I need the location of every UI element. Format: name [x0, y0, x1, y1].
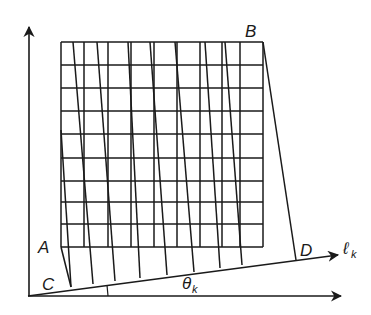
slanted-line — [97, 42, 115, 281]
label-l: ℓ — [342, 239, 349, 258]
label-theta: θ — [182, 274, 192, 293]
slanted-line — [128, 42, 140, 278]
label-theta-k: θ k — [182, 274, 198, 295]
slanted-line — [205, 42, 220, 268]
angle-arc-tick — [107, 285, 108, 296]
slanted-mesh-lines — [61, 42, 296, 287]
label-theta-subscript: k — [192, 283, 198, 295]
label-lk: ℓ k — [342, 239, 357, 260]
label-C: C — [42, 275, 55, 294]
slanted-line — [175, 42, 194, 272]
slanted-line — [61, 130, 71, 287]
label-l-subscript: k — [351, 248, 357, 260]
label-D: D — [300, 241, 312, 260]
slanted-line — [263, 42, 296, 260]
label-A: A — [37, 238, 49, 257]
label-B: B — [245, 22, 256, 41]
mesh-projection-diagram: B A C D ℓ k θ k — [0, 0, 371, 315]
